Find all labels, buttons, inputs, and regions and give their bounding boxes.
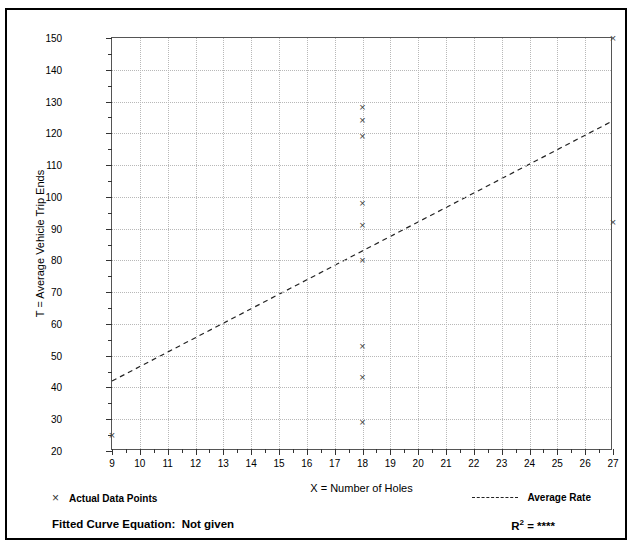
x-axis-tick [446, 449, 447, 455]
x-axis-tick [196, 449, 197, 455]
x-axis-minor-tick [488, 449, 489, 453]
legend-label-actual-data-points: Actual Data Points [69, 493, 157, 504]
y-axis-minor-tick [108, 149, 112, 150]
y-axis-tick-label: 60 [51, 318, 62, 329]
x-axis-minor-tick [516, 449, 517, 453]
x-axis-tick [557, 449, 558, 455]
dashed-line-icon [472, 497, 518, 498]
x-axis-minor-tick [376, 449, 377, 453]
y-axis-tick [106, 70, 112, 71]
x-axis-tick [390, 449, 391, 455]
y-axis-tick-label: 150 [45, 33, 62, 44]
y-axis-tick [106, 451, 112, 452]
y-axis-minor-tick [108, 372, 112, 373]
x-axis-minor-tick [237, 449, 238, 453]
y-axis-minor-tick [108, 117, 112, 118]
r-squared-statistic: R2 = **** [511, 518, 555, 532]
y-axis-tick [106, 102, 112, 103]
y-axis-tick [106, 38, 112, 39]
y-axis-tick-label: 90 [51, 223, 62, 234]
x-axis-tick-label: 16 [301, 458, 312, 469]
gridline-horizontal [112, 387, 611, 388]
x-axis-tick [335, 449, 336, 455]
y-axis-tick [106, 356, 112, 357]
x-axis-minor-tick [571, 449, 572, 453]
r-squared-symbol: R [511, 520, 519, 532]
y-axis-minor-tick [108, 308, 112, 309]
x-axis-minor-tick [432, 449, 433, 453]
chart-frame: T = Average Vehicle Trip Ends X = Number… [5, 8, 627, 540]
x-axis-tick-label: 21 [440, 458, 451, 469]
y-axis-minor-tick [108, 86, 112, 87]
average-rate-trend-line [112, 122, 611, 381]
fitted-curve-equation: Fitted Curve Equation: Not given [52, 518, 234, 530]
y-axis-minor-tick [108, 435, 112, 436]
gridline-horizontal [112, 419, 611, 420]
legend-item-average-rate: Average Rate [472, 492, 591, 503]
y-axis-minor-tick [108, 340, 112, 341]
x-axis-tick [418, 449, 419, 455]
chart-footer: Fitted Curve Equation: Not given R2 = **… [5, 518, 627, 538]
x-axis-tick [613, 449, 614, 455]
y-axis-minor-tick [108, 245, 112, 246]
legend-label-average-rate: Average Rate [527, 492, 591, 503]
x-axis-tick [530, 449, 531, 455]
gridline-horizontal [112, 70, 611, 71]
x-axis-minor-tick [599, 449, 600, 453]
legend-item-actual-data-points: × Actual Data Points [52, 492, 157, 504]
y-axis-tick [106, 387, 112, 388]
x-axis-minor-tick [543, 449, 544, 453]
x-axis-tick-label: 14 [246, 458, 257, 469]
y-axis-tick-label: 140 [45, 64, 62, 75]
r-squared-value: = **** [527, 520, 555, 532]
x-axis-tick [307, 449, 308, 455]
y-axis-tick-label: 110 [46, 160, 62, 171]
x-axis-minor-tick [293, 449, 294, 453]
gridline-horizontal [112, 229, 611, 230]
x-axis-tick-label: 17 [329, 458, 340, 469]
x-axis-tick-label: 10 [134, 458, 145, 469]
x-axis-tick [363, 449, 364, 455]
gridline-horizontal [112, 102, 611, 103]
y-axis-minor-tick [108, 54, 112, 55]
cross-marker-icon: × [52, 492, 59, 504]
x-axis-minor-tick [349, 449, 350, 453]
gridline-horizontal [112, 292, 611, 293]
x-axis-minor-tick [404, 449, 405, 453]
y-axis-tick-label: 100 [45, 191, 62, 202]
y-axis-minor-tick [108, 276, 112, 277]
x-axis-minor-tick [460, 449, 461, 453]
y-axis-tick [106, 292, 112, 293]
y-axis-tick-label: 40 [51, 382, 62, 393]
plot-area: 9101112131415161718192021222324252627203… [111, 37, 612, 450]
y-axis-tick-label: 120 [45, 128, 62, 139]
x-axis-tick [168, 449, 169, 455]
x-axis-tick [585, 449, 586, 455]
x-axis-tick-label: 9 [109, 458, 115, 469]
chart-page: T = Average Vehicle Trip Ends X = Number… [0, 0, 636, 549]
x-axis-tick-label: 27 [607, 458, 618, 469]
y-axis-tick [106, 419, 112, 420]
x-axis-tick-label: 19 [385, 458, 396, 469]
gridline-horizontal [112, 260, 611, 261]
x-axis-tick-label: 18 [357, 458, 368, 469]
y-axis-tick-label: 80 [51, 255, 62, 266]
x-axis-minor-tick [321, 449, 322, 453]
y-axis-tick [106, 197, 112, 198]
y-axis-tick-label: 20 [51, 446, 62, 457]
y-axis-tick-label: 50 [51, 350, 62, 361]
x-axis-tick [279, 449, 280, 455]
x-axis-tick-label: 11 [162, 458, 172, 469]
r-squared-exponent: 2 [520, 518, 524, 527]
x-axis-tick-label: 26 [580, 458, 591, 469]
gridline-horizontal [112, 165, 611, 166]
y-axis-tick [106, 229, 112, 230]
x-axis-tick-label: 24 [524, 458, 535, 469]
x-axis-tick-label: 15 [273, 458, 284, 469]
gridline-horizontal [112, 133, 611, 134]
x-axis-minor-tick [209, 449, 210, 453]
y-axis-tick-label: 130 [45, 96, 62, 107]
y-axis-tick [106, 165, 112, 166]
x-axis-tick [502, 449, 503, 455]
x-axis-minor-tick [182, 449, 183, 453]
